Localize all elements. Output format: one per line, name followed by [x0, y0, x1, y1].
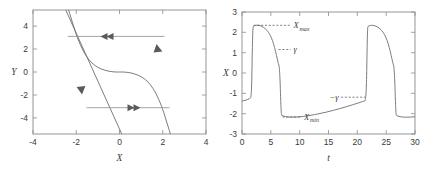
panel-phase-portrait: -4 -2 0 2 4 -4 -2 0 2 4 X Y	[0, 0, 219, 173]
right-xtick-label-3: 15	[324, 137, 334, 147]
left-xtick-label-3: 2	[160, 137, 165, 147]
left-ytick-label-4: 4	[23, 21, 28, 31]
right-ytick-label-4: 1	[232, 48, 237, 58]
right-x-ticks	[242, 12, 415, 134]
left-xtick-label-1: -2	[72, 137, 80, 147]
right-axes-frame	[242, 12, 415, 134]
flow-arrow-left-head-2	[107, 33, 114, 40]
right-ytick-label-5: 2	[232, 27, 237, 37]
right-xtick-label-2: 10	[295, 137, 305, 147]
right-xtick-label-4: 20	[353, 137, 363, 147]
flow-arrow-right-head-1	[128, 104, 135, 111]
panel-time-series: 0 5 10 15 20 25 30 -3 -2 -1 0 1 2 3 t X	[219, 0, 438, 173]
flow-arrow-branch-up	[154, 44, 163, 53]
flow-arrow-branch-down	[77, 86, 86, 95]
right-ytick-label-6: 3	[232, 7, 237, 17]
left-ytick-label-3: 2	[23, 44, 28, 54]
left-xtick-label-4: 4	[204, 137, 209, 147]
x-max-label: X	[293, 20, 300, 30]
right-ytick-label-1: -2	[229, 109, 237, 119]
right-xtick-label-1: 5	[268, 137, 273, 147]
cubic-nullcline-curve	[67, 5, 172, 139]
right-plot-svg: 0 5 10 15 20 25 30 -3 -2 -1 0 1 2 3 t X	[219, 0, 438, 173]
right-ytick-label-0: -3	[229, 129, 237, 139]
left-ytick-label-2: 0	[23, 67, 28, 77]
left-ytick-label-1: -2	[20, 90, 28, 100]
flow-arrow-left-head-1	[101, 33, 108, 40]
left-x-axis-title: X	[116, 153, 124, 163]
right-y-axis-title: X	[222, 68, 230, 78]
negative-gamma-label: −γ	[330, 92, 340, 102]
left-xtick-label-0: -4	[29, 137, 37, 147]
right-ytick-label-3: 0	[232, 68, 237, 78]
figure-container: -4 -2 0 2 4 -4 -2 0 2 4 X Y	[0, 0, 438, 173]
flow-arrow-right-head-2	[134, 104, 141, 111]
right-y-ticks	[242, 12, 415, 134]
right-ytick-label-2: -1	[229, 88, 237, 98]
x-max-subscript: max	[300, 26, 310, 32]
x-min-label: X	[303, 112, 310, 122]
right-xtick-label-5: 25	[381, 137, 391, 147]
left-ytick-label-0: -4	[20, 113, 28, 123]
relaxation-oscillation-curve	[242, 25, 415, 117]
right-x-axis-title: t	[327, 153, 330, 163]
left-y-axis-title: Y	[11, 67, 18, 77]
gamma-label: γ	[294, 44, 298, 54]
right-xtick-label-0: 0	[240, 137, 245, 147]
right-xtick-label-6: 30	[410, 137, 420, 147]
x-min-subscript: min	[310, 117, 319, 123]
left-xtick-label-2: 0	[117, 137, 122, 147]
left-plot-svg: -4 -2 0 2 4 -4 -2 0 2 4 X Y	[0, 0, 219, 173]
